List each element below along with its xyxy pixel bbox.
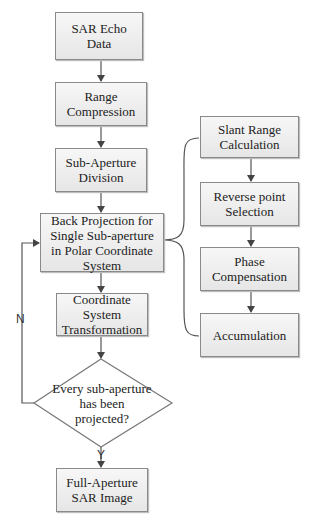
reverse-point-selection-box: Reverse point Selection: [200, 182, 299, 226]
phase-compensation-box: Phase Compensation: [200, 247, 299, 291]
coordinate-transformation-box: Coordinate System Transformation: [56, 293, 148, 336]
range-compression-box: Range Compression: [55, 82, 147, 126]
sub-aperture-division-box: Sub-Aperture Division: [55, 148, 147, 192]
decision-diamond-text: Every sub-aperture has been projected?: [52, 380, 152, 426]
accumulation-box: Accumulation: [200, 313, 299, 357]
slant-range-calculation-box: Slant Range Calculation: [200, 116, 299, 158]
back-projection-box: Back Projection for Single Sub-aperture …: [40, 213, 164, 272]
full-aperture-image-box: Full-Aperture SAR Image: [56, 468, 148, 512]
no-label: N: [16, 312, 25, 326]
yes-label: Y: [97, 448, 105, 462]
sar-echo-data-box: SAR Echo Data: [55, 12, 143, 60]
